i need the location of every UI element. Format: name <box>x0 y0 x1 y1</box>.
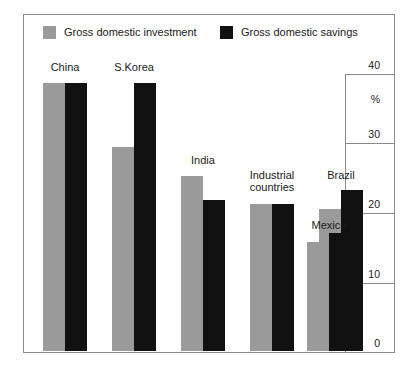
bar-mexico-investment <box>307 242 329 351</box>
bar-group-mexico-visible: Mexico <box>307 15 351 351</box>
bar-industrial-countries-savings <box>272 204 294 351</box>
bar-mexico-savings <box>329 233 351 351</box>
group-label-china: China <box>38 61 92 73</box>
group-label-mexico: Mexico <box>302 219 356 231</box>
bar-skorea-savings <box>134 83 156 351</box>
bar-india-investment <box>181 176 203 351</box>
group-label-industrial-countries: Industrial countries <box>236 169 308 193</box>
bar-group-india: India <box>181 15 225 351</box>
bar-skorea-investment <box>112 147 134 351</box>
group-label-skorea: S.Korea <box>104 61 164 73</box>
plot-area: 40 % 30 20 10 0 China S.Korea <box>24 15 394 352</box>
bar-india-savings <box>203 200 225 351</box>
chart-frame: Gross domestic investment Gross domestic… <box>23 14 395 353</box>
bar-chart-figure: Gross domestic investment Gross domestic… <box>0 0 419 374</box>
bar-china-investment <box>43 83 65 351</box>
bar-industrial-countries-investment <box>250 204 272 351</box>
axis-tick-rule-0 <box>346 352 394 353</box>
bar-group-skorea: S.Korea <box>112 15 156 351</box>
bar-group-china: China <box>43 15 87 351</box>
bars-layer: China S.Korea India <box>24 15 345 351</box>
bar-group-industrial-countries: Industrial countries <box>250 15 294 351</box>
group-label-india: India <box>176 154 230 166</box>
bar-china-savings <box>65 83 87 351</box>
